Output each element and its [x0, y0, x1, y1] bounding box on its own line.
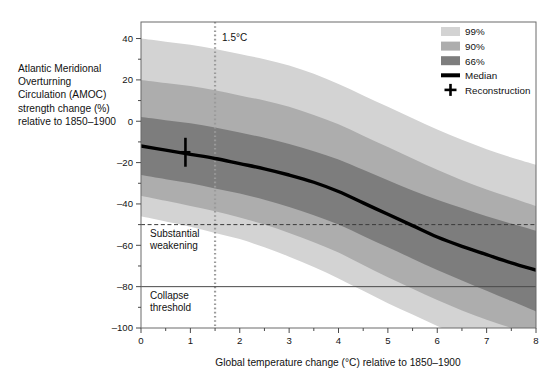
x-tick-label: 2 [237, 335, 242, 346]
x-axis-title: Global temperature change (°C) relative … [215, 357, 461, 368]
legend-label: 99% [465, 26, 485, 37]
y-axis: 40200–20–40–60–80–100 [112, 33, 141, 333]
x-axis: 012345678 [138, 328, 538, 346]
legend-line-median [441, 73, 460, 77]
x-tick-label: 8 [533, 335, 538, 346]
x-tick-label: 6 [435, 335, 440, 346]
legend-label: 66% [465, 56, 485, 67]
warming-marker-label: 1.5°C [222, 32, 247, 43]
amoc-figure: Atlantic Meridional Overturning Circulat… [0, 0, 556, 374]
x-tick-label: 0 [138, 335, 143, 346]
y-tick-label: –40 [117, 198, 133, 209]
chart-canvas: 40200–20–40–60–80–100 012345678 Global t… [0, 0, 556, 374]
y-tick-label: 0 [128, 116, 133, 127]
collapse-threshold-label-1: Collapse [150, 290, 189, 301]
x-tick-label: 3 [286, 335, 291, 346]
y-tick-label: 20 [122, 74, 133, 85]
y-tick-label: –60 [117, 240, 133, 251]
x-tick-label: 5 [385, 335, 390, 346]
y-tick-label: –20 [117, 157, 133, 168]
x-tick-label: 4 [336, 335, 342, 346]
legend-label: 90% [465, 41, 485, 52]
legend-label: Reconstruction [465, 85, 530, 96]
x-tick-label: 1 [188, 335, 193, 346]
substantial-weakening-label-1: Substantial [150, 228, 199, 239]
legend-label: Median [465, 70, 497, 81]
legend-swatch-90pct [441, 42, 460, 51]
x-tick-label: 7 [484, 335, 489, 346]
legend-swatch-66pct [441, 56, 460, 65]
substantial-weakening-label-2: weakening [149, 240, 198, 251]
collapse-threshold-label-2: threshold [150, 302, 191, 313]
y-tick-label: –100 [112, 322, 133, 333]
legend-swatch-99pct [441, 27, 460, 36]
y-tick-label: 40 [122, 33, 133, 44]
y-tick-label: –80 [117, 281, 133, 292]
